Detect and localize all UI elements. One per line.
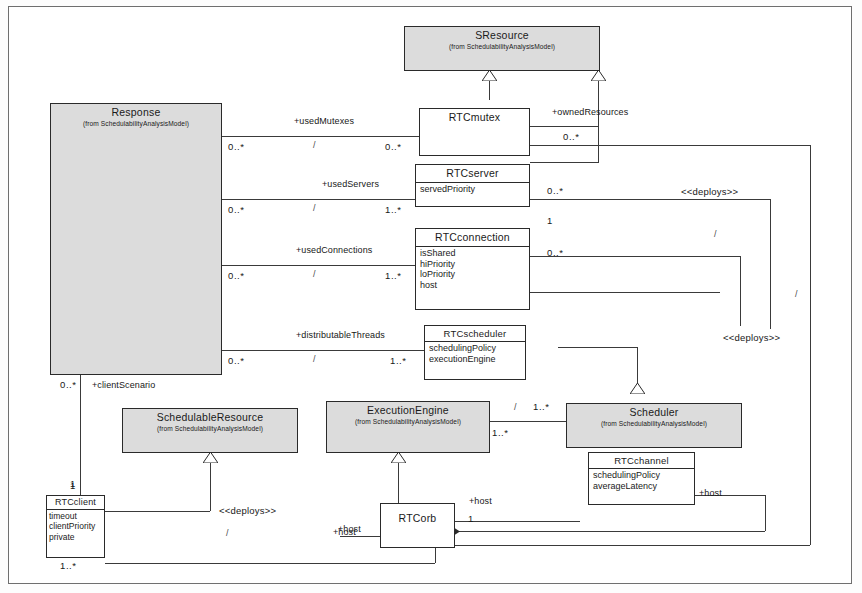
class-name-response: Response [53, 107, 219, 119]
assoc-mult-used-mutexes-target: 0..* [385, 141, 402, 152]
class-from-scheduler: (from SchedulabilityAnalysisModel) [569, 420, 739, 427]
class-attrs-rtcchannel: schedulingPolicy averageLatency [589, 469, 694, 494]
generalization-triangle-schedulable-resource [203, 452, 218, 463]
assoc-mult-engine-scheduler-source: 1..* [492, 427, 509, 438]
server-right-v [770, 199, 771, 329]
assoc-mult-used-connections-target: 1..* [385, 270, 402, 281]
client-orb-h [105, 563, 435, 564]
class-attrs-rtcscheduler: schedulingPolicy executionEngine [425, 342, 525, 367]
class-attr: hiPriority [420, 259, 526, 270]
diagram-canvas: SResource (from SchedulabilityAnalysisMo… [0, 0, 862, 593]
assoc-mult-client-orb: 1..* [60, 560, 77, 571]
assoc-slash-5: / [714, 229, 717, 239]
assoc-role-used-mutexes: +usedMutexes [294, 116, 354, 126]
generalization-triangle-scheduler [630, 383, 645, 394]
assoc-line-used-servers [222, 199, 418, 200]
assoc-role-host-bottom: +host [338, 524, 361, 534]
assoc-slash-8: / [514, 402, 517, 412]
assoc-role-distributable-threads: +distributableThreads [296, 330, 385, 340]
assoc-mult-host-orb-right: 1 [468, 513, 474, 524]
class-attr: schedulingPolicy [429, 343, 522, 354]
class-box-rtcclient[interactable]: RTCclient timeout clientPriority private [46, 495, 105, 558]
class-name-rtcserver: RTCserver [418, 168, 527, 180]
assoc-role-client-scenario: +clientScenario [92, 380, 155, 390]
class-header-sresource: SResource (from SchedulabilityAnalysisMo… [405, 27, 599, 52]
assoc-slash-7: / [226, 528, 229, 538]
class-name-schedulableresource: SchedulableResource [125, 412, 295, 424]
assoc-slash-4: / [313, 354, 316, 364]
assoc-slash-6: / [795, 289, 798, 299]
class-box-rtcorb[interactable]: RTCorb [380, 503, 455, 548]
rtcscheduler-right-h [558, 347, 638, 348]
class-header-rtcscheduler: RTCscheduler [425, 326, 525, 341]
assoc-role-host-orb-right: +host [469, 496, 492, 506]
assoc-mult-used-mutexes-source: 0..* [228, 141, 245, 152]
class-name-rtcscheduler: RTCscheduler [427, 329, 523, 339]
class-attr: isShared [420, 248, 526, 259]
class-box-rtcconnection[interactable]: RTCconnection isShared hiPriority loPrio… [415, 228, 530, 310]
connection-right-v [740, 256, 741, 326]
bus-line-mutex-right [530, 145, 810, 146]
engine-scheduler-h [490, 421, 566, 422]
assoc-mult-used-connections-source: 0..* [228, 270, 245, 281]
class-name-rtcclient: RTCclient [48, 498, 103, 508]
assoc-mult-used-servers-target: 1..* [385, 204, 402, 215]
assoc-slash-3: / [313, 269, 316, 279]
class-box-rtcchannel[interactable]: RTCchannel schedulingPolicy averageLaten… [588, 452, 695, 505]
class-attr: executionEngine [429, 354, 522, 365]
generalization-triangle-mutex [482, 70, 497, 81]
connection-right-line2 [530, 292, 720, 293]
class-header-rtcorb: RTCorb [381, 504, 454, 527]
class-header-rtcconnection: RTCconnection [416, 229, 529, 246]
class-attrs-rtcclient: timeout clientPriority private [47, 510, 104, 543]
class-box-scheduler[interactable]: Scheduler (from SchedulabilityAnalysisMo… [566, 403, 742, 448]
assoc-mult-server-right: 0..* [547, 185, 564, 196]
gen-line-server-h [530, 162, 599, 163]
class-box-rtcscheduler[interactable]: RTCscheduler schedulingPolicy executionE… [424, 325, 526, 380]
class-name-scheduler: Scheduler [569, 407, 739, 419]
class-header-response: Response (from SchedulabilityAnalysisMod… [51, 104, 221, 129]
class-header-rtcmutex: RTCmutex [420, 109, 529, 126]
class-name-rtcorb: RTCorb [383, 513, 452, 525]
assoc-line-used-connections [222, 265, 418, 266]
assoc-mult-distributable-threads-target: 1..* [390, 355, 407, 366]
class-attrs-rtcconnection: isShared hiPriority loPriority host [416, 247, 529, 294]
class-box-executionengine[interactable]: ExecutionEngine (from SchedulabilityAnal… [326, 401, 490, 453]
assoc-role-used-connections: +usedConnections [296, 245, 372, 255]
class-name-executionengine: ExecutionEngine [329, 405, 487, 417]
assoc-mult-engine-scheduler-target: 1..* [533, 401, 550, 412]
class-attr: private [49, 532, 103, 542]
class-from-sresource: (from SchedulabilityAnalysisModel) [407, 43, 597, 50]
class-attr: loPriority [420, 269, 526, 280]
generalization-triangle-server [591, 70, 606, 81]
assoc-slash-1: / [313, 140, 316, 150]
class-attr: schedulingPolicy [593, 470, 691, 481]
ownedres-line-h [530, 126, 598, 127]
class-name-rtcmutex: RTCmutex [422, 112, 527, 124]
assoc-mult-client-scenario-source: 0..* [60, 379, 77, 390]
class-header-scheduler: Scheduler (from SchedulabilityAnalysisMo… [567, 404, 741, 429]
class-attr: host [420, 280, 526, 291]
assoc-role-owned-resources: +ownedResources [552, 107, 628, 117]
assoc-line-used-mutexes [222, 136, 436, 137]
class-box-response[interactable]: Response (from SchedulabilityAnalysisMod… [50, 103, 222, 375]
class-attr: timeout [49, 511, 103, 521]
assoc-mult-distributable-threads-source: 0..* [228, 355, 245, 366]
client-sr-h [105, 511, 210, 512]
class-header-rtcclient: RTCclient [47, 496, 104, 509]
generalization-triangle-execution-engine [391, 452, 406, 463]
class-box-rtcmutex[interactable]: RTCmutex [419, 108, 530, 156]
class-box-schedulableresource[interactable]: SchedulableResource (from Schedulability… [122, 408, 298, 453]
class-header-rtcserver: RTCserver [416, 165, 529, 182]
class-name-rtcconnection: RTCconnection [418, 232, 527, 244]
bus-line-bottom [430, 545, 810, 546]
assoc-role-used-servers: +usedServers [322, 179, 379, 189]
class-box-sresource[interactable]: SResource (from SchedulabilityAnalysisMo… [404, 26, 600, 71]
client-scenario-v [80, 374, 81, 499]
stereotype-deploys-top-right: <<deploys>> [681, 186, 738, 197]
class-name-sresource: SResource [407, 30, 597, 42]
channel-right-v [765, 495, 766, 531]
client-sr-v [210, 455, 211, 511]
class-box-rtcserver[interactable]: RTCserver servedPriority [415, 164, 530, 207]
assoc-line-distributable-threads [222, 350, 425, 351]
